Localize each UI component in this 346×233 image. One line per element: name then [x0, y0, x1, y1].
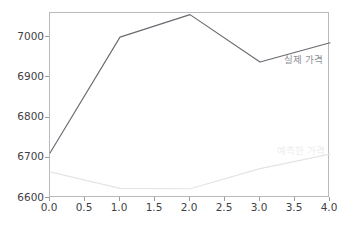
- x-axis-tick-mark: [294, 197, 295, 201]
- x-axis-tick-label: 3.0: [251, 201, 268, 213]
- x-axis-tick-mark: [329, 197, 330, 201]
- x-axis-tick-label: 0.5: [76, 201, 93, 213]
- plot-area: [49, 12, 329, 197]
- series-line: [50, 15, 330, 153]
- y-axis-tick-mark: [45, 36, 49, 37]
- x-axis-tick-mark: [154, 197, 155, 201]
- x-axis-tick-labels: 0.00.51.01.52.02.53.03.54.0: [49, 199, 329, 217]
- chart-figure: 66006700680069007000 0.00.51.01.52.02.53…: [0, 0, 346, 233]
- x-axis-tick-label: 2.5: [216, 201, 233, 213]
- x-axis-tick-label: 1.0: [111, 201, 128, 213]
- series-annotation-actual: 실제 가격: [284, 54, 323, 65]
- x-axis-tick-mark: [119, 197, 120, 201]
- series-line: [50, 154, 330, 189]
- x-axis-tick-label: 3.5: [286, 201, 303, 213]
- x-axis-tick-label: 2.0: [181, 201, 198, 213]
- x-axis-tick-mark: [49, 197, 50, 201]
- x-axis-tick-label: 4.0: [321, 201, 338, 213]
- x-axis-tick-mark: [259, 197, 260, 201]
- y-axis-tick-label: 6700: [17, 151, 44, 162]
- y-axis-tick-mark: [45, 76, 49, 77]
- x-axis-tick-mark: [189, 197, 190, 201]
- series-lines: [50, 13, 330, 198]
- x-axis-tick-mark: [224, 197, 225, 201]
- x-axis-tick-mark: [84, 197, 85, 201]
- y-axis-tick-label: 6800: [17, 111, 44, 122]
- y-axis-tick-label: 6900: [17, 71, 44, 82]
- y-axis-tick-mark: [45, 117, 49, 118]
- y-axis-tick-mark: [45, 157, 49, 158]
- y-axis-tick-label: 7000: [17, 31, 44, 42]
- y-axis-tick-labels: 66006700680069007000: [0, 0, 44, 233]
- series-annotation-predicted: 예측한 가격: [277, 145, 325, 156]
- x-axis-tick-label: 1.5: [146, 201, 163, 213]
- x-axis-tick-label: 0.0: [41, 201, 58, 213]
